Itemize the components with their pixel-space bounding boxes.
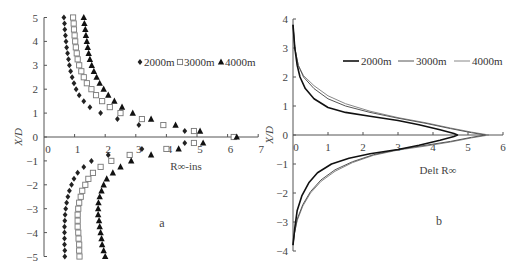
y-tick-label: 2	[283, 71, 289, 83]
y-tick-label: 3	[283, 42, 289, 54]
y-tick-label: 4	[283, 13, 289, 25]
y-tick-label: −3	[276, 216, 288, 228]
legend-b: 2000m3000m4000m	[343, 55, 503, 67]
legend-label: 3000m	[416, 55, 447, 67]
y-axis-title: X/D	[263, 126, 275, 145]
legend-label: 4000m	[472, 55, 503, 67]
y-tick-label: −2	[276, 187, 288, 199]
chart-b-line: 43210−1−2−3−40123456X/DDelt R∞b2000m3000…	[0, 0, 518, 271]
legend-label: 2000m	[361, 55, 392, 67]
x-tick-label: 0	[293, 141, 299, 153]
y-tick-label: 1	[283, 100, 289, 112]
figure: 543210−1−2−3−4−501234567X/DR∞-insa2000m3…	[0, 0, 518, 271]
x-tick-label: 1	[325, 141, 331, 153]
x-tick-label: 2	[360, 141, 366, 153]
x-axis-title: Delt R∞	[420, 164, 457, 176]
y-tick-label: 0	[283, 129, 289, 141]
panel-label-b: b	[436, 214, 442, 228]
x-tick-label: 3	[395, 141, 401, 153]
y-tick-label: −4	[276, 245, 288, 257]
y-tick-label: −1	[276, 158, 288, 170]
x-tick-label: 6	[500, 141, 506, 153]
x-tick-label: 5	[465, 141, 471, 153]
